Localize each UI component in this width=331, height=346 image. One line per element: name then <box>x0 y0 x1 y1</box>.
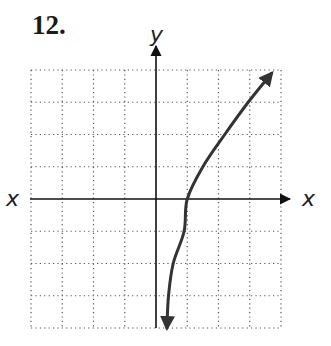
graph-plot <box>0 0 331 346</box>
function-curve <box>167 73 272 328</box>
